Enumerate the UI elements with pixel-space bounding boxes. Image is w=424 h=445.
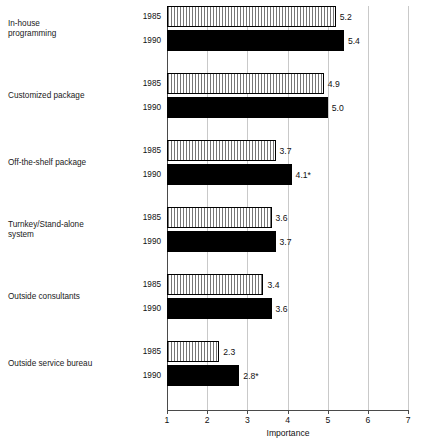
bar-1985 (167, 274, 263, 295)
bar-1985 (167, 341, 219, 362)
bar-row: 2.3 (167, 341, 408, 362)
bar-1985 (167, 140, 276, 161)
bar-value-label: 5.0 (332, 103, 344, 113)
bar-value-label: 2.8* (243, 371, 258, 381)
bar-row: 3.4 (167, 274, 408, 295)
year-label-1985: 1985 (133, 146, 161, 155)
category-label: Outside consultants (8, 292, 130, 303)
x-tick-6 (368, 410, 369, 414)
bar-row: 3.7 (167, 140, 408, 161)
bar-row: 2.8* (167, 365, 408, 386)
x-tick-label-3: 3 (237, 415, 257, 425)
bar-1990 (167, 164, 292, 185)
x-tick-7 (408, 410, 409, 414)
category-label: Customized package (8, 91, 130, 102)
x-tick-label-4: 4 (278, 415, 298, 425)
x-tick-label-2: 2 (197, 415, 217, 425)
x-tick-2 (207, 410, 208, 414)
category-label: Outside service bureau (8, 359, 130, 370)
bar-1990 (167, 365, 239, 386)
year-label-1990: 1990 (133, 170, 161, 179)
category-label: Turnkey/Stand-alone system (8, 220, 130, 241)
plot-area: 5.25.44.95.03.74.1*3.63.73.43.62.32.8* (167, 6, 408, 410)
bar-value-label: 3.7 (280, 146, 292, 156)
year-label-1990: 1990 (133, 304, 161, 313)
bar-row: 4.9 (167, 73, 408, 94)
bar-row: 3.6 (167, 298, 408, 319)
bar-1990 (167, 30, 344, 51)
bar-value-label: 2.3 (223, 347, 235, 357)
bar-row: 5.2 (167, 6, 408, 27)
year-label-1985: 1985 (133, 280, 161, 289)
x-tick-label-6: 6 (358, 415, 378, 425)
bar-row: 3.7 (167, 231, 408, 252)
bar-1985 (167, 73, 324, 94)
bar-value-label: 4.9 (328, 79, 340, 89)
x-tick-1 (167, 410, 168, 414)
year-label-1990: 1990 (133, 371, 161, 380)
bar-row: 5.4 (167, 30, 408, 51)
bar-value-label: 3.4 (267, 280, 279, 290)
importance-bar-chart: In-house programmingCustomized packageOf… (0, 0, 424, 445)
year-label-1985: 1985 (133, 12, 161, 21)
bar-1985 (167, 6, 336, 27)
bar-1990 (167, 97, 328, 118)
year-label-1985: 1985 (133, 79, 161, 88)
bar-value-label: 3.6 (276, 213, 288, 223)
year-label-1990: 1990 (133, 103, 161, 112)
bar-1990 (167, 231, 276, 252)
bar-value-label: 5.2 (340, 12, 352, 22)
bar-row: 5.0 (167, 97, 408, 118)
bar-value-label: 3.7 (280, 237, 292, 247)
bar-value-label: 3.6 (276, 304, 288, 314)
x-axis-title: Importance (167, 428, 409, 438)
bar-value-label: 5.4 (348, 36, 360, 46)
x-tick-4 (288, 410, 289, 414)
category-label: In-house programming (8, 19, 130, 40)
bar-value-label: 4.1* (296, 170, 311, 180)
year-label-1990: 1990 (133, 237, 161, 246)
x-tick-label-7: 7 (398, 415, 418, 425)
bar-1990 (167, 298, 272, 319)
year-label-1985: 1985 (133, 347, 161, 356)
bar-1985 (167, 207, 272, 228)
bar-row: 3.6 (167, 207, 408, 228)
year-label-1990: 1990 (133, 36, 161, 45)
x-tick-label-5: 5 (318, 415, 338, 425)
x-tick-3 (247, 410, 248, 414)
year-label-1985: 1985 (133, 213, 161, 222)
category-label: Off-the-shelf package (8, 158, 130, 169)
bar-row: 4.1* (167, 164, 408, 185)
gridline-7 (408, 6, 409, 410)
x-tick-5 (328, 410, 329, 414)
x-tick-label-1: 1 (157, 415, 177, 425)
